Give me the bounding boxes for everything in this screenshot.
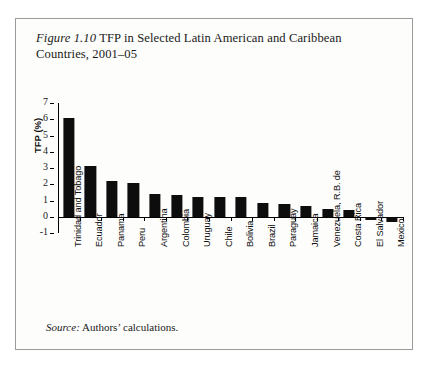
y-tick-label: 6	[43, 112, 48, 123]
bar-slot	[209, 103, 231, 233]
country-label: Paraguay	[288, 208, 298, 247]
country-label: Brazil	[267, 225, 277, 247]
bar	[214, 197, 225, 217]
y-tick-mark	[50, 168, 54, 169]
country-label: Chile	[224, 227, 234, 247]
bar-slot	[252, 103, 274, 233]
y-tick-mark	[50, 184, 54, 185]
bar	[128, 183, 139, 217]
x-tick	[58, 217, 59, 221]
country-label: Colombia	[181, 209, 191, 247]
y-tick-label: 7	[43, 96, 48, 107]
country-label: Argentina	[159, 209, 169, 247]
figure-title: Figure 1.10 TFP in Selected Latin Americ…	[36, 31, 394, 62]
y-tick-label: 2	[43, 177, 48, 188]
y-axis-title: TFP (%)	[32, 118, 43, 153]
y-tick-mark	[50, 103, 54, 104]
y-tick-label: -1	[40, 226, 48, 237]
country-label: Mexico	[396, 218, 406, 247]
country-label: Uruguay	[202, 213, 212, 247]
source-note: Source: Authors’ calculations.	[46, 321, 178, 333]
bar-slot	[231, 103, 253, 233]
country-label: Panama	[116, 213, 126, 247]
plot-area: TFP (%) 76543210-1 Trinidad and TobagoEc…	[58, 103, 403, 233]
y-tick-label: 4	[43, 145, 48, 156]
country-label: El Salvador	[375, 201, 385, 247]
y-tick-label: 3	[43, 161, 48, 172]
y-tick-mark	[50, 136, 54, 137]
bar	[257, 203, 268, 217]
y-tick-mark	[50, 119, 54, 120]
bar	[236, 197, 247, 217]
y-tick-mark	[50, 217, 54, 218]
country-label: Jamaica	[310, 213, 320, 247]
y-tick: -1	[54, 233, 58, 234]
figure-number: Figure 1.10	[36, 31, 96, 45]
country-label: Peru	[137, 228, 147, 247]
country-label: Venezuela, R.B. de	[332, 170, 342, 247]
country-label: Costa Rica	[353, 203, 363, 247]
x-tick	[274, 217, 275, 221]
y-tick-label: 0	[43, 210, 48, 221]
figure-container: Figure 1.10 TFP in Selected Latin Americ…	[15, 18, 413, 350]
source-text: Authors’ calculations.	[80, 321, 178, 333]
bar	[85, 166, 96, 216]
y-tick-label: 1	[43, 194, 48, 205]
y-tick-label: 5	[43, 129, 48, 140]
country-label: Ecuador	[94, 213, 104, 247]
bar	[106, 181, 117, 217]
y-tick-mark	[50, 152, 54, 153]
source-label: Source:	[46, 321, 80, 333]
x-tick	[144, 217, 145, 221]
country-label: Bolivia	[245, 221, 255, 247]
y-tick-mark	[50, 201, 54, 202]
country-label: Trinidad and Tobago	[73, 166, 83, 247]
y-tick-mark	[50, 233, 54, 234]
x-tick	[231, 217, 232, 221]
